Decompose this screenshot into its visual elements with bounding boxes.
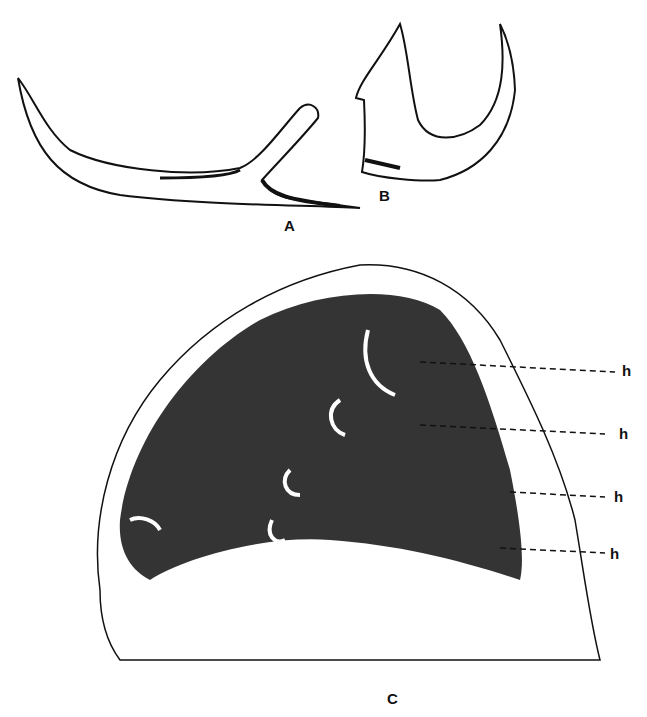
panel-label-a: A — [284, 217, 295, 234]
panel-label-b: B — [379, 187, 390, 204]
panel-c-dense-tissue — [120, 294, 522, 580]
panel-a-hook — [18, 78, 360, 208]
panel-label-c: C — [387, 690, 398, 707]
callout-label-h-1: h — [622, 362, 631, 379]
callout-label-h-4: h — [610, 545, 619, 562]
figure-drawing — [0, 0, 647, 717]
callout-label-h-2: h — [619, 425, 628, 442]
callout-label-h-3: h — [614, 488, 623, 505]
panel-b-hook — [356, 24, 515, 181]
